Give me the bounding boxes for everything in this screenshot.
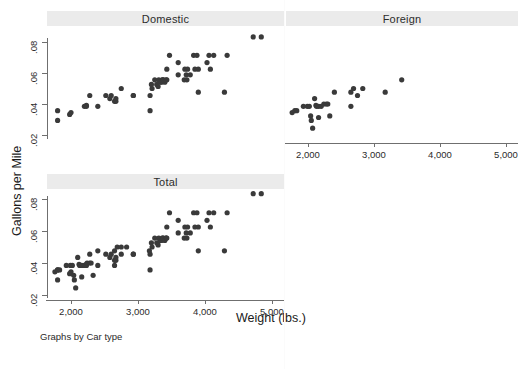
- x-tick-label-total-2: 4,000: [187, 306, 223, 317]
- y-axis-title: Gallons per Mile: [10, 146, 24, 236]
- scatter-point: [211, 53, 216, 58]
- scatter-point: [196, 90, 201, 95]
- scatter-point: [194, 53, 199, 58]
- scatter-point: [308, 113, 313, 118]
- y-tick-total-1: [42, 231, 47, 232]
- scatter-point: [222, 248, 227, 253]
- y-tick-label-domestic-2: .04: [28, 103, 39, 116]
- x-tick-foreign-1: [374, 143, 375, 147]
- scatter-point: [251, 34, 256, 39]
- scatter-point: [225, 210, 230, 215]
- x-tick-total-1: [138, 300, 139, 304]
- scatter-point: [185, 67, 190, 72]
- scatter-point: [95, 248, 100, 253]
- scatter-point: [119, 86, 124, 91]
- panel-title-domestic: Domestic: [47, 11, 284, 26]
- scatter-point: [89, 260, 94, 265]
- panel-title-domestic-label: Domestic: [142, 13, 189, 25]
- y-tick-domestic-1: [42, 73, 47, 74]
- scatter-point: [259, 34, 264, 39]
- y-tick-label-domestic-3: .02: [28, 134, 39, 147]
- scatter-point: [360, 86, 365, 91]
- scatter-point: [348, 104, 353, 109]
- y-tick-total-2: [42, 263, 47, 264]
- graphs-by-note: Graphs by Car type: [40, 331, 122, 342]
- scatter-point: [185, 224, 190, 229]
- scatter-point: [91, 273, 96, 278]
- scatter-point: [188, 72, 193, 77]
- scatter-point: [351, 86, 356, 91]
- scatter-point: [194, 210, 199, 215]
- x-axis-line-foreign: [284, 143, 518, 144]
- scatter-point: [149, 244, 154, 249]
- x-tick-total-2: [205, 300, 206, 304]
- x-tick-label-foreign-3: 5,000: [488, 149, 524, 160]
- panel-plot-total: [47, 191, 284, 301]
- scatter-point: [167, 53, 172, 58]
- scatter-point: [87, 93, 92, 98]
- scatter-points-foreign: [286, 28, 518, 138]
- scatter-point: [383, 90, 388, 95]
- stata-scatter-figure: Gallons per Mile Weight (lbs.) Domestic …: [0, 0, 525, 369]
- scatter-point: [87, 252, 92, 257]
- scatter-point: [204, 60, 209, 65]
- y-tick-label-domestic-0: .08: [28, 41, 39, 54]
- y-tick-total-3: [42, 295, 47, 296]
- y-tick-total-0: [42, 199, 47, 200]
- scatter-point: [164, 67, 169, 72]
- scatter-point: [332, 90, 337, 95]
- panel-plot-foreign: [286, 28, 518, 138]
- scatter-point: [167, 210, 172, 215]
- panel-title-foreign-label: Foreign: [383, 13, 422, 25]
- scatter-point: [307, 104, 312, 109]
- scatter-point: [95, 104, 100, 109]
- scatter-point: [310, 126, 315, 131]
- scatter-point: [113, 96, 118, 101]
- y-tick-label-domestic-1: .06: [28, 72, 39, 85]
- y-tick-domestic-3: [42, 135, 47, 136]
- x-tick-total-0: [71, 300, 72, 304]
- y-axis-line-total: [47, 196, 48, 298]
- scatter-point: [355, 93, 360, 98]
- scatter-point: [188, 230, 193, 235]
- page-seam: [284, 0, 285, 369]
- scatter-point: [208, 67, 213, 72]
- y-tick-label-total-3: .02: [28, 294, 39, 307]
- y-tick-label-total-1: .06: [28, 230, 39, 243]
- scatter-points-total: [47, 191, 284, 301]
- scatter-point: [294, 108, 299, 113]
- scatter-points-domestic: [47, 28, 284, 138]
- scatter-point: [149, 86, 154, 91]
- panel-title-foreign: Foreign: [286, 11, 518, 26]
- scatter-point: [259, 191, 264, 196]
- panel-title-total-label: Total: [153, 176, 177, 188]
- scatter-point: [124, 244, 129, 249]
- scatter-point: [184, 235, 189, 240]
- scatter-point: [156, 242, 161, 247]
- scatter-point: [57, 267, 62, 272]
- scatter-point: [325, 101, 330, 106]
- x-tick-label-total-0: 2,000: [53, 306, 89, 317]
- panel-title-total: Total: [47, 174, 284, 189]
- x-tick-label-foreign-0: 2,000: [290, 149, 326, 160]
- scatter-point: [109, 93, 114, 98]
- scatter-point: [225, 53, 230, 58]
- scatter-point: [176, 60, 181, 65]
- scatter-point: [131, 93, 136, 98]
- x-tick-total-3: [272, 300, 273, 304]
- scatter-point: [113, 255, 118, 260]
- scatter-point: [71, 273, 76, 278]
- scatter-point: [79, 274, 84, 279]
- scatter-point: [55, 108, 60, 113]
- scatter-point: [196, 248, 201, 253]
- scatter-point: [211, 210, 216, 215]
- y-tick-domestic-2: [42, 104, 47, 105]
- scatter-point: [184, 77, 189, 82]
- x-tick-label-foreign-1: 3,000: [356, 149, 392, 160]
- y-tick-label-total-0: .08: [28, 198, 39, 211]
- x-tick-foreign-3: [506, 143, 507, 147]
- scatter-point: [316, 115, 321, 120]
- scatter-point: [206, 210, 211, 215]
- scatter-point: [72, 277, 77, 282]
- scatter-point: [55, 277, 60, 282]
